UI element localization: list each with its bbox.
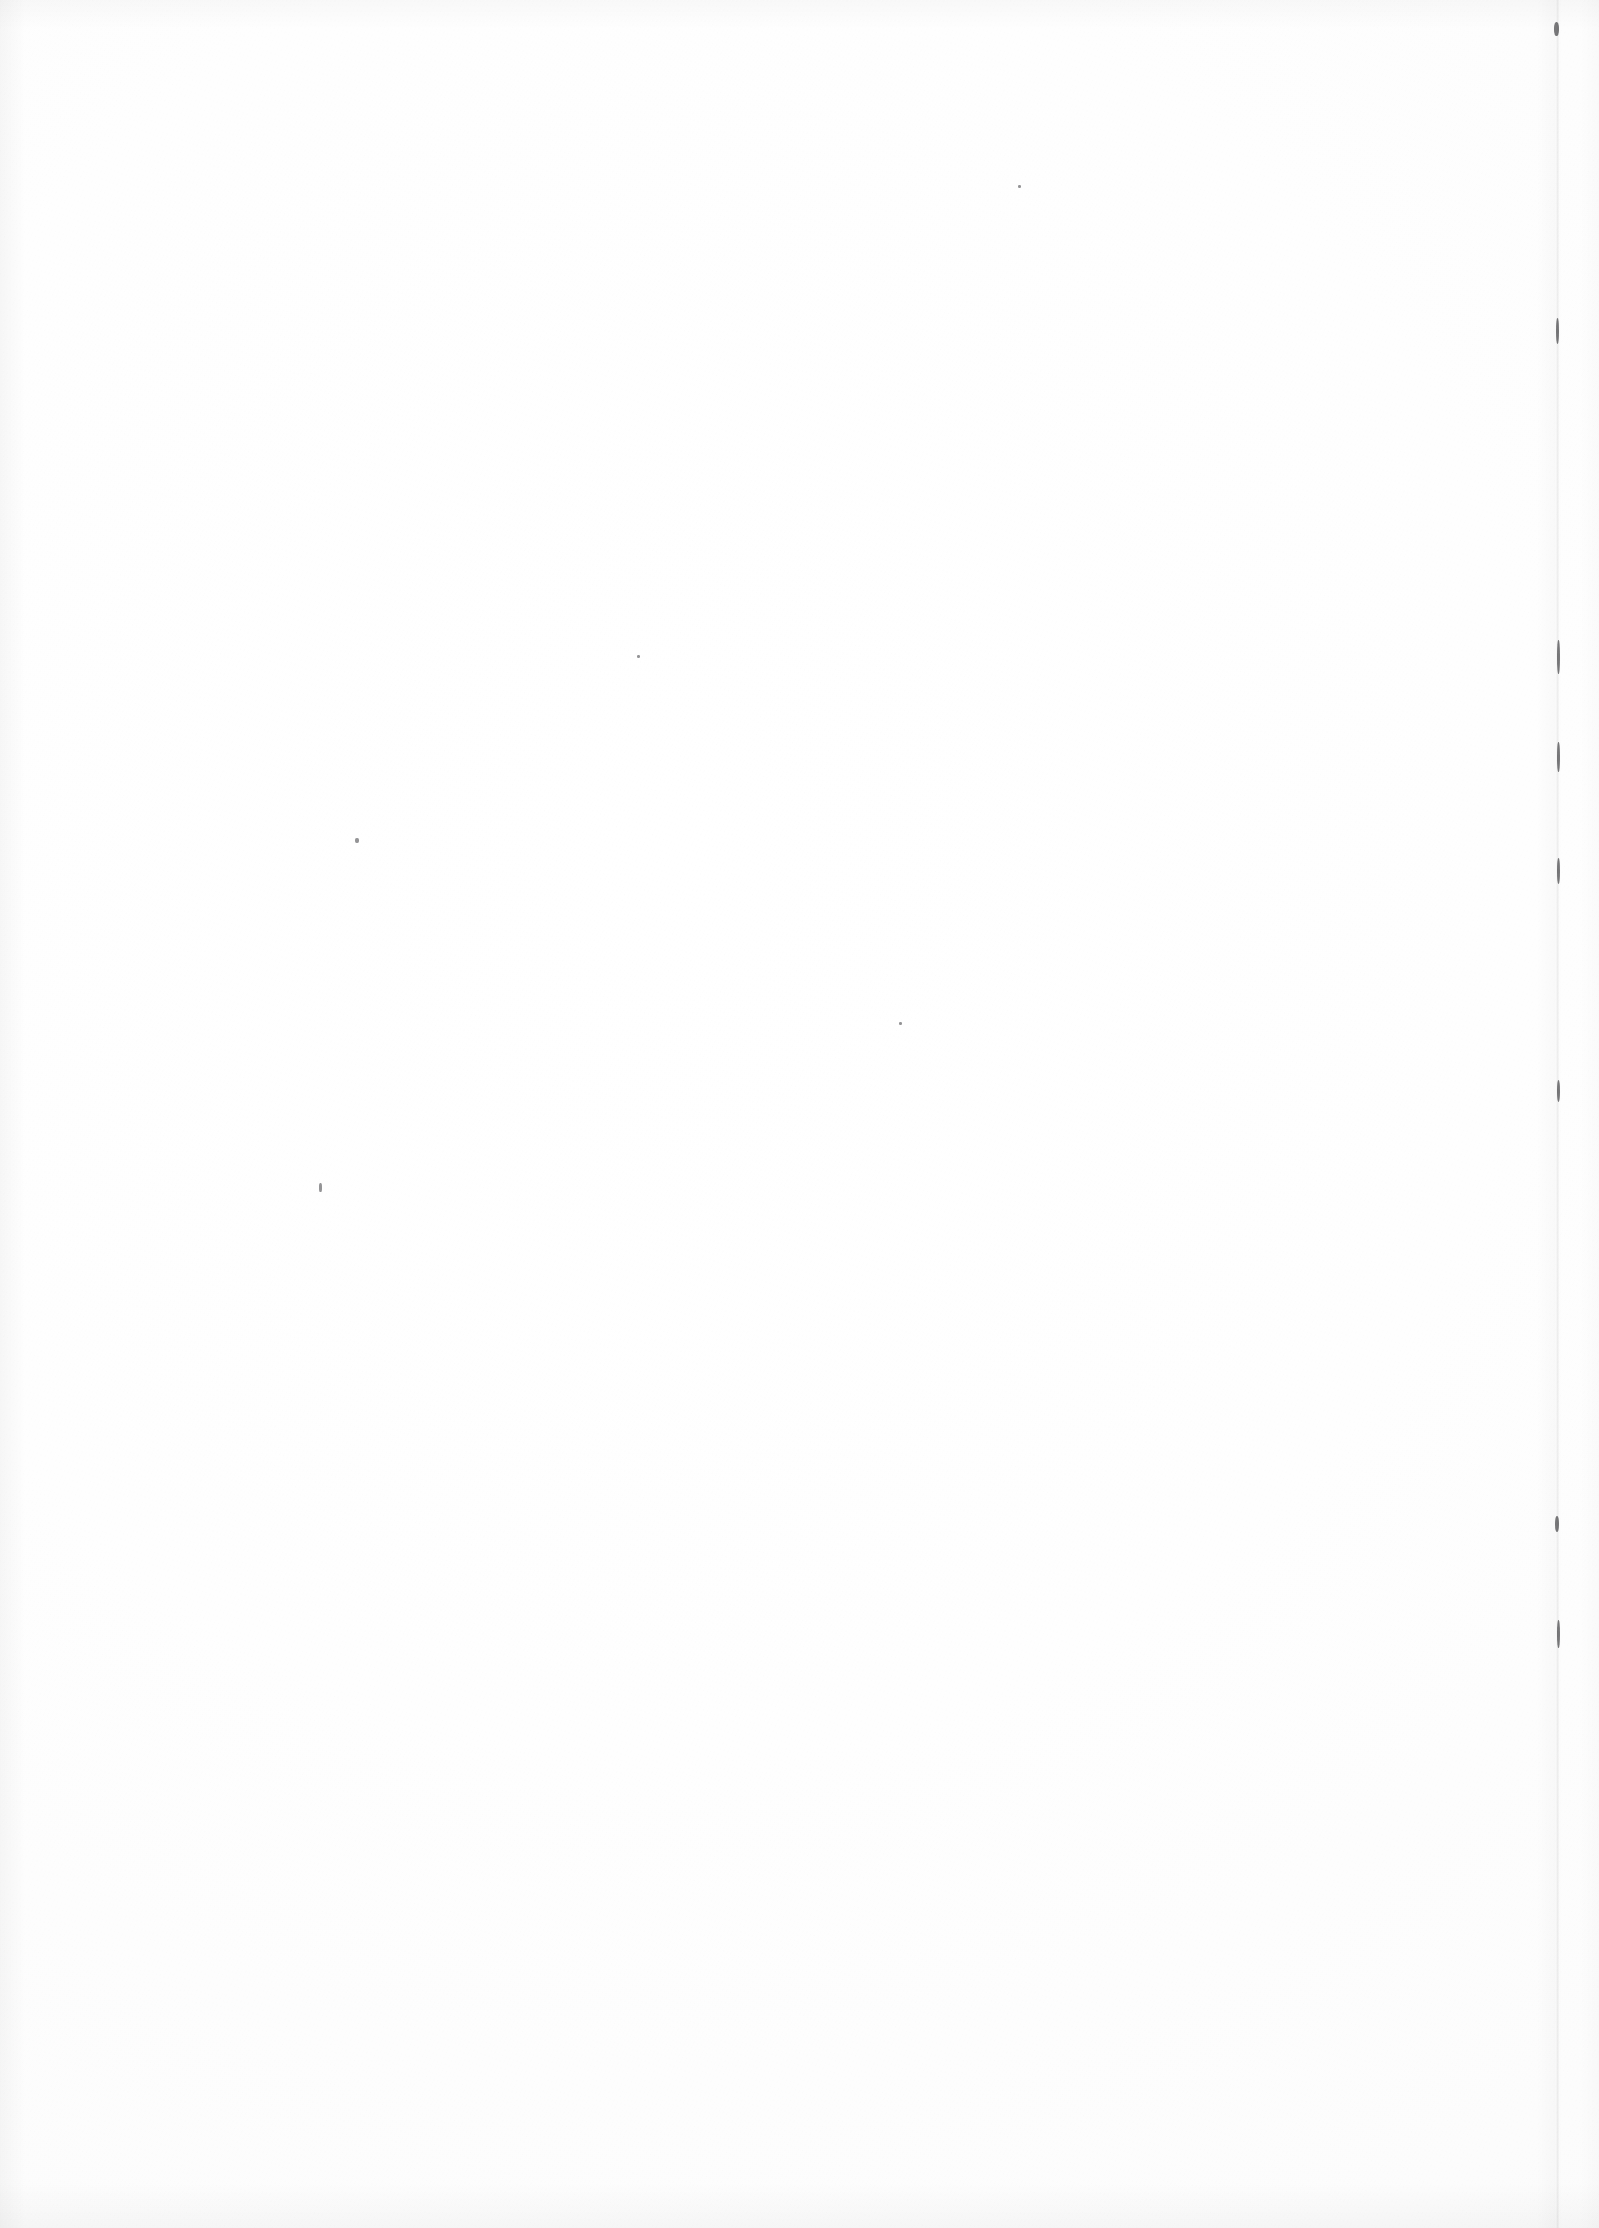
scanned-page [0, 0, 1599, 2228]
page-text-content [0, 0, 1599, 2228]
